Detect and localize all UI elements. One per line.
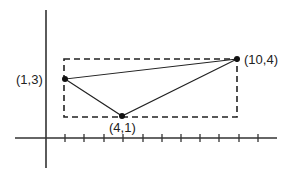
label-point-4-1: (4,1) [109, 120, 136, 135]
point-10-4 [234, 56, 240, 62]
triangle [65, 59, 237, 116]
label-point-1-3: (1,3) [16, 72, 43, 87]
bounding-rectangle [64, 59, 237, 117]
coordinate-diagram: (1,3) (4,1) (10,4) [0, 0, 289, 175]
point-1-3 [62, 76, 68, 82]
point-4-1 [119, 113, 125, 119]
label-point-10-4: (10,4) [244, 52, 278, 67]
